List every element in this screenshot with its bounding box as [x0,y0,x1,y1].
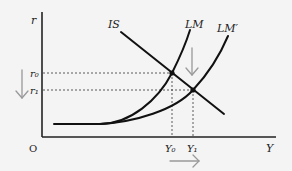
y1-label: Y₁ [187,143,198,154]
axes [42,12,276,137]
guide-lines [43,73,193,137]
lm-shift-down-arrow-icon [186,48,198,75]
r-fall-arrow-icon [16,70,28,98]
lm-prime-curve [100,36,228,124]
is-label: IS [107,18,120,31]
lm-label: LM [184,18,204,31]
equilibrium-point-e1 [190,87,195,92]
curves [54,30,228,124]
lm-prime-label: LM′ [216,22,239,35]
r0-label: r₀ [30,68,39,79]
y-axis-label: r [31,14,37,27]
is-lm-diagram: r O Y IS LM LM′ r₀ r₁ Y₀ Y₁ [0,0,292,171]
y0-label: Y₀ [165,143,176,154]
origin-label: O [29,143,37,154]
y-rise-arrow-icon [170,155,199,167]
x-axis-label: Y [266,142,275,155]
lm-curve [54,30,190,124]
equilibrium-point-e0 [169,70,174,75]
r1-label: r₁ [30,85,39,96]
